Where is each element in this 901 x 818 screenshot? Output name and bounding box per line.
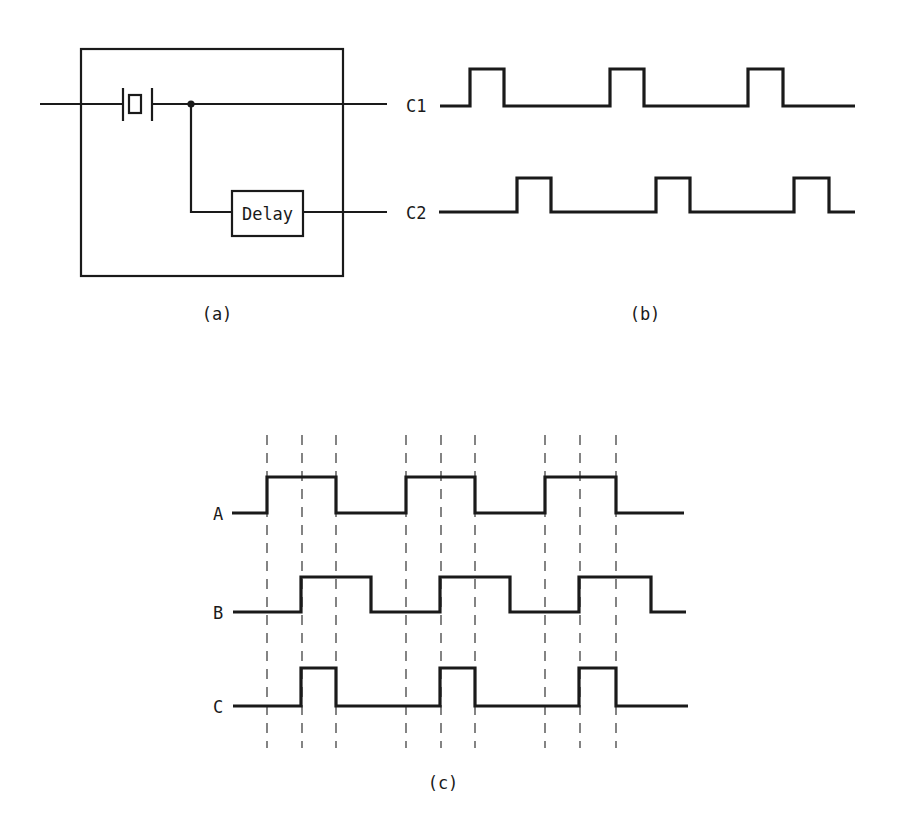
caption-a: (a) bbox=[202, 304, 233, 324]
signal-label-c1: C1 bbox=[406, 96, 426, 116]
panel-b-waveforms: C1 C2 (b) bbox=[406, 69, 855, 324]
waveform-a bbox=[232, 477, 684, 513]
signal-label-c2: C2 bbox=[406, 203, 426, 223]
signal-label-b: B bbox=[213, 603, 223, 623]
panel-c-timing: A B C (c) bbox=[213, 435, 688, 793]
panel-a-circuit: Delay (a) bbox=[40, 49, 387, 324]
signal-label-a: A bbox=[213, 504, 223, 524]
caption-c: (c) bbox=[428, 773, 459, 793]
waveform-b bbox=[233, 577, 686, 612]
crystal-oscillator-icon bbox=[123, 88, 152, 121]
enclosure-box bbox=[81, 49, 343, 276]
waveform-c1 bbox=[440, 69, 855, 106]
caption-b: (b) bbox=[630, 304, 661, 324]
timing-diagram-figure: Delay (a) C1 C2 (b) A B C (c) bbox=[0, 0, 901, 818]
waveform-c2 bbox=[439, 178, 855, 212]
waveform-c bbox=[233, 668, 688, 706]
delay-label: Delay bbox=[242, 204, 293, 224]
signal-label-c: C bbox=[213, 697, 223, 717]
branch-wire bbox=[191, 104, 232, 212]
